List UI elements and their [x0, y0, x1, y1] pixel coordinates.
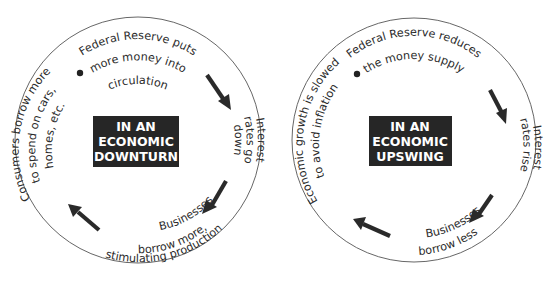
center-label-line: IN AN	[390, 119, 430, 134]
center-label-line: DOWNTURN	[94, 149, 178, 164]
center-label-line: IN AN	[116, 119, 156, 134]
start-dot-icon	[354, 71, 360, 77]
center-label-line: ECONOMIC	[372, 134, 448, 149]
center-label-box: IN AN ECONOMIC DOWNTURN	[93, 116, 179, 167]
cycle-downturn: Federal Reserve puts more money into cir…	[9, 17, 269, 265]
center-label-box: IN AN ECONOMIC UPSWING	[369, 116, 452, 166]
economic-cycles-diagram: Federal Reserve puts more money into cir…	[0, 0, 544, 282]
start-dot-icon	[77, 70, 83, 76]
center-label-line: UPSWING	[376, 149, 443, 164]
step-text-line: down	[231, 124, 245, 157]
center-label-line: ECONOMIC	[98, 134, 174, 149]
cycle-upswing: Federal Reserve reduces the money supply…	[292, 18, 544, 262]
step-interest-rates-rise: Interest rates rise	[517, 117, 544, 174]
svg-text:down: down	[231, 124, 245, 157]
